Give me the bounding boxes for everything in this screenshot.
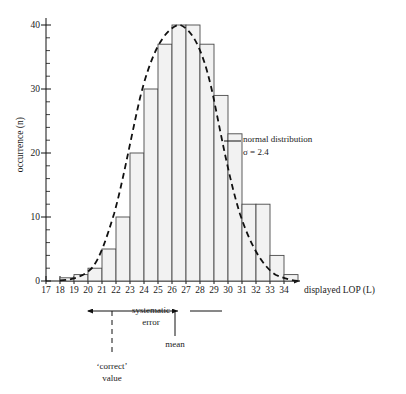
histogram-bars: [60, 25, 298, 281]
bar: [172, 25, 186, 281]
bar: [242, 204, 256, 281]
bar: [228, 134, 242, 281]
bar: [214, 95, 228, 281]
bar: [102, 249, 116, 281]
bar: [158, 44, 172, 281]
chart-canvas: [0, 0, 406, 394]
bar: [186, 25, 200, 281]
bar: [130, 153, 144, 281]
histogram-figure: occurrence (n) 0 10 20 30 40 17 18 19 20…: [0, 0, 406, 394]
bar: [270, 255, 284, 281]
bar: [256, 204, 270, 281]
bar: [116, 217, 130, 281]
bar: [144, 89, 158, 281]
bar: [200, 44, 214, 281]
